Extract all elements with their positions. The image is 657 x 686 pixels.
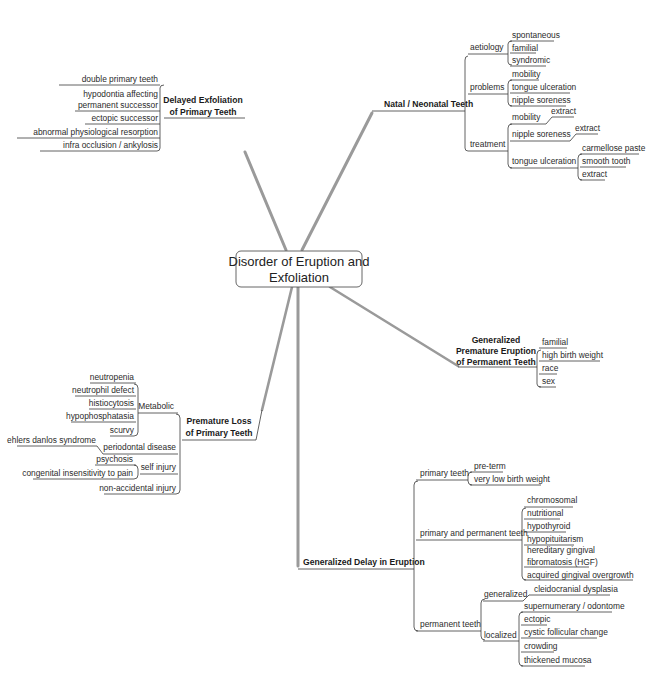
connector-delayed-exfoliation (245, 152, 286, 250)
list-item: smooth tooth (582, 156, 631, 166)
list-item: pre-term (474, 461, 506, 471)
list-item: cleidocranial dysplasia (534, 584, 618, 594)
list-item: scurvy (110, 425, 135, 435)
branch-premature-loss[interactable]: Premature Loss of Primary Teeth Metaboli… (7, 372, 262, 494)
list-item: permanent successor (78, 100, 158, 110)
list-item: hypodontia affecting (83, 89, 158, 99)
list-item: extract (582, 169, 608, 179)
list-item: neutropenia (90, 372, 135, 382)
list-item: ectopic successor (91, 113, 158, 123)
list-item: neutrophil defect (72, 385, 135, 395)
center-title-line1: Disorder of Eruption and (229, 254, 370, 269)
metabolic-label: Metabolic (138, 401, 174, 411)
permanent-teeth-label: permanent teeth (420, 619, 481, 629)
list-item: syndromic (512, 55, 550, 65)
self-injury-label: self injury (141, 462, 177, 472)
list-item: very low birth weight (474, 474, 551, 484)
list-item: hypopituitarism (527, 534, 583, 544)
list-item: fibromatosis (HGF) (527, 557, 598, 567)
list-item: acquired gingival overgrowth (527, 570, 634, 580)
list-item: congenital insensitivity to pain (22, 468, 133, 478)
list-item: ehlers danlos syndrome (7, 435, 96, 445)
primary-teeth-label: primary teeth (420, 468, 469, 478)
list-item: nutritional (527, 508, 563, 518)
list-item: nipple soreness (512, 95, 571, 105)
generalized-label: generalized (484, 589, 528, 599)
list-item: supernumerary / odontome (524, 601, 625, 611)
aetiology-label: aetiology (470, 42, 504, 52)
list-item: familial (512, 43, 538, 53)
connector-natal (302, 113, 372, 250)
branch-delay-eruption[interactable]: Generalized Delay in Eruption primary te… (298, 461, 634, 666)
list-item: psychosis (96, 454, 133, 464)
branch-premature-eruption[interactable]: Generalized Premature Eruption of Perman… (456, 335, 604, 387)
treatment-nipple-label: nipple soreness (512, 129, 571, 139)
list-item: mobility (512, 69, 541, 79)
connector-premature-eruption (330, 287, 458, 366)
list-item: hypophosphatasia (66, 411, 134, 421)
localized-label: localized (484, 630, 517, 640)
mind-map: Disorder of Eruption and Exfoliation Del… (0, 0, 657, 686)
delay-eruption-title: Generalized Delay in Eruption (303, 557, 425, 567)
delayed-exfoliation-title-2: of Primary Teeth (169, 107, 236, 117)
list-item: spontaneous (512, 30, 560, 40)
list-item: extract (551, 106, 577, 116)
problems-label: problems (470, 82, 504, 92)
list-item: crowding (524, 641, 558, 651)
list-item: familial (542, 337, 568, 347)
list-item: hypothyroid (527, 521, 571, 531)
list-item: carmellose paste (582, 143, 646, 153)
list-item: race (542, 363, 559, 373)
list-item: tongue ulceration (512, 82, 577, 92)
branch-natal[interactable]: Natal / Neonatal Teeth aetiology spontan… (372, 30, 646, 180)
premature-loss-title-1: Premature Loss (187, 416, 252, 426)
premature-eruption-title-1: Generalized (472, 335, 521, 345)
list-item: thickened mucosa (524, 655, 592, 665)
list-item: extract (575, 123, 601, 133)
treatment-tongue-label: tongue ulceration (512, 156, 577, 166)
center-title-line2: Exfoliation (269, 270, 329, 285)
list-item: infra occlusion / ankylosis (63, 140, 158, 150)
list-item: high birth weight (542, 350, 604, 360)
premature-eruption-title-2: Premature Eruption (456, 346, 536, 356)
list-item: non-accidental injury (99, 483, 177, 493)
list-item: sex (542, 376, 556, 386)
list-item: histiocytosis (89, 398, 134, 408)
list-item: chromosomal (527, 495, 577, 505)
primary-permanent-label: primary and permanent teeth (420, 528, 528, 538)
delayed-exfoliation-title-1: Delayed Exfoliation (163, 95, 242, 105)
connector-premature-loss (262, 287, 292, 410)
branch-delayed-exfoliation[interactable]: Delayed Exfoliation of Primary Teeth dou… (17, 74, 245, 151)
list-item: hereditary gingival (527, 545, 595, 555)
premature-eruption-title-3: of Permanent Teeth (456, 357, 536, 367)
treatment-mobility-label: mobility (512, 112, 541, 122)
premature-loss-title-2: of Primary Teeth (185, 428, 252, 438)
center-node[interactable]: Disorder of Eruption and Exfoliation (229, 251, 370, 287)
main-connectors (245, 113, 458, 566)
list-item: ectopic (524, 614, 551, 624)
periodontal-label: periodontal disease (103, 442, 176, 452)
list-item: cystic follicular change (524, 627, 608, 637)
list-item: abnormal physiological resorption (33, 127, 158, 137)
treatment-label: treatment (470, 139, 506, 149)
natal-title: Natal / Neonatal Teeth (384, 99, 473, 109)
list-item: double primary teeth (82, 74, 159, 84)
